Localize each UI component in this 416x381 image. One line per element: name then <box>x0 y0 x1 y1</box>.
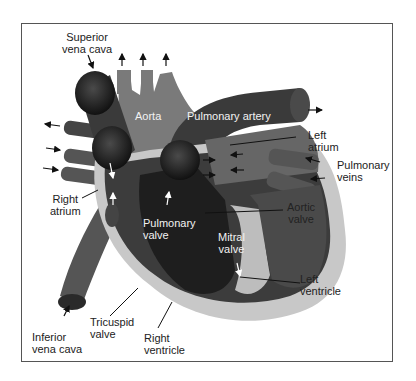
label-aortic-valve: Aortic valve <box>287 201 315 225</box>
label-pulmonary-artery: Pulmonary artery <box>187 110 271 122</box>
label-aorta: Aorta <box>135 110 161 122</box>
label-tricuspid-valve: Tricuspid valve <box>90 316 134 340</box>
label-pulmonary-valve: Pulmonary valve <box>143 217 196 241</box>
label-right-atrium: Right atrium <box>50 193 81 217</box>
label-left-ventricle: Left ventricle <box>300 273 341 297</box>
superior-vena-cava-opening <box>75 71 115 115</box>
label-inferior-vena-cava: Inferior vena cava <box>32 331 82 355</box>
label-left-atrium: Left atrium <box>308 129 339 153</box>
label-mitral-valve: Mitral valve <box>218 231 245 255</box>
pulmonary-valve-opening <box>160 140 200 180</box>
right-atrium-opening <box>92 126 132 170</box>
tricuspid-valve-opening <box>105 203 119 227</box>
label-right-ventricle: Right ventricle <box>144 332 185 356</box>
aorta-branch-1 <box>117 70 131 94</box>
label-pulmonary-veins: Pulmonary veins <box>337 159 390 183</box>
label-superior-vena-cava: Superior vena cava <box>62 31 112 55</box>
pulmonary-artery-end <box>290 88 310 122</box>
aorta-branch-2 <box>141 70 153 94</box>
heart-illustration <box>0 0 416 381</box>
inferior-vena-cava-opening <box>58 294 86 310</box>
